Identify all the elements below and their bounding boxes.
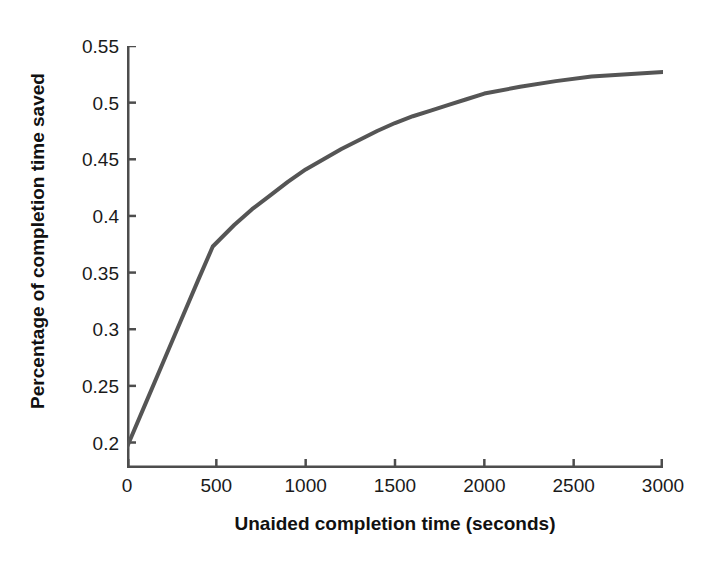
plot-area [127, 46, 663, 468]
x-tick-label: 500 [200, 476, 232, 495]
y-tick-label: 0.45 [49, 150, 119, 169]
axes-and-series-svg [127, 46, 663, 468]
x-tick-label: 3000 [642, 476, 684, 495]
x-axis-tick-labels: 050010001500200025003000 [127, 476, 663, 502]
y-tick-label: 0.4 [49, 206, 119, 225]
x-tick-label: 1500 [374, 476, 416, 495]
data-series-line [127, 72, 663, 447]
y-axis-title-wrapper: Percentage of completion time saved [27, 31, 53, 451]
y-tick-label: 0.35 [49, 263, 119, 282]
x-tick-label: 2000 [463, 476, 505, 495]
y-axis-title: Percentage of completion time saved [27, 31, 49, 451]
y-tick-label: 0.25 [49, 376, 119, 395]
y-tick-label: 0.5 [49, 93, 119, 112]
chart-figure: 0.20.250.30.350.40.450.50.55 05001000150… [0, 0, 716, 567]
x-axis-title: Unaided completion time (seconds) [127, 513, 663, 535]
y-tick-label: 0.55 [49, 37, 119, 56]
x-tick-label: 1000 [285, 476, 327, 495]
y-tick-label: 0.2 [49, 433, 119, 452]
x-tick-label: 0 [122, 476, 133, 495]
x-tick-label: 2500 [553, 476, 595, 495]
y-tick-label: 0.3 [49, 320, 119, 339]
